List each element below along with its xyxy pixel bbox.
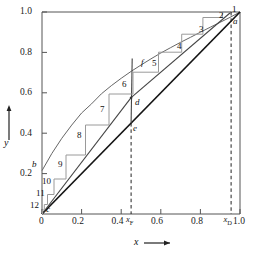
y-axis-ticks [42,12,47,174]
y-tick-label-0.6: 0.6 [20,88,32,98]
y-tick-label-0.8: 0.8 [20,48,32,58]
x-axis-ticks [42,209,240,214]
stage-label-11: 11 [36,189,45,198]
step-6 [109,94,133,125]
mccabe-thiele-diagram: 1.0 0.8 0.6 0.4 0.2 0 0.2 0.4 0.6 0.8 1.… [0,0,266,254]
stage-label-1: 1 [232,5,237,14]
y-tick-label-0.4: 0.4 [20,129,32,139]
point-label-f: f [141,58,144,67]
equilibrium-curve [42,12,240,171]
stage-label-10: 10 [42,177,51,186]
point-label-c: c [46,205,50,214]
x-tick-label-1.0: 1.0 [233,217,245,227]
step-8 [66,155,86,179]
x-axis-title: x [134,237,138,247]
stage-label-4: 4 [177,42,182,51]
x-tick-label-0: 0 [39,217,44,227]
y-tick-label-0.2: 0.2 [20,169,32,179]
xf-axis-label: xF [126,215,133,226]
point-d-marker [130,96,133,99]
x-tick-label-0.8: 0.8 [191,217,203,227]
q-line [131,59,132,124]
stage-label-12: 12 [30,201,39,210]
y-tick-label-1.0: 1.0 [20,7,32,17]
stage-label-3: 3 [199,25,204,34]
point-label-d: d [135,98,140,107]
xf-subscript: F [130,219,134,226]
y-axis-arrow [7,105,12,140]
stage-label-2: 2 [219,11,224,20]
step-5 [133,72,159,94]
point-label-e: e [133,124,137,133]
x-tick-label-0.4: 0.4 [112,217,124,227]
stage-label-6: 6 [122,80,127,89]
stage-label-9: 9 [58,160,63,169]
y-axis-title: y [4,138,8,148]
step-7 [86,125,110,155]
stage-label-7: 7 [100,105,105,114]
point-label-b: b [32,160,37,169]
x-axis-arrow [144,241,170,246]
diagonal-45-line [42,12,240,214]
stage-label-8: 8 [77,131,82,140]
xd-subscript: D [227,219,232,226]
xd-axis-label: xD [224,215,232,226]
rectifying-operating-line [131,12,231,98]
stage-label-5: 5 [152,59,157,68]
x-tick-label-0.6: 0.6 [151,217,163,227]
x-tick-label-0.2: 0.2 [72,217,84,227]
step-4 [159,52,182,72]
stripping-operating-line [42,98,131,214]
point-label-a: a [233,17,238,26]
